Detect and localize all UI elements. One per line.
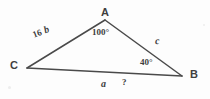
triangle-diagram: A B C 100° 40° 16 b c a ? — [0, 0, 210, 99]
side-c-name: c — [155, 36, 160, 46]
scan-noise-speck — [8, 86, 11, 89]
vertex-label-a: A — [101, 7, 109, 18]
side-a-unknown-measure: ? — [122, 78, 127, 87]
angle-label-a: 100° — [92, 28, 109, 37]
scan-noise-speck — [203, 24, 205, 26]
angle-label-b: 40° — [140, 58, 153, 67]
side-cb-line — [27, 68, 182, 76]
vertex-label-c: C — [10, 60, 18, 71]
side-a-name: a — [101, 79, 106, 89]
side-ab-line — [105, 20, 182, 76]
vertex-label-b: B — [190, 69, 198, 80]
